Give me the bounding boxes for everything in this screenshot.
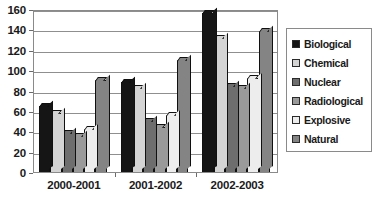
y-tick-label: 0 bbox=[20, 167, 26, 179]
bar-biological-2001-2002 bbox=[121, 82, 132, 172]
bar-group bbox=[197, 11, 279, 172]
legend-item-label: Natural bbox=[304, 133, 338, 145]
bar-side-face bbox=[49, 101, 53, 169]
legend-swatch-icon bbox=[292, 78, 300, 86]
x-tick-mark bbox=[115, 173, 116, 177]
y-tick-label: 160 bbox=[7, 4, 26, 16]
bar-side-face bbox=[106, 75, 110, 169]
plot-area bbox=[33, 10, 278, 173]
bar-side-face bbox=[61, 108, 65, 169]
bar-side-face bbox=[72, 128, 76, 169]
legend-item-natural[interactable]: Natural bbox=[292, 129, 367, 148]
bar-biological-2002-2003 bbox=[202, 13, 213, 172]
legend-item-label: Nuclear bbox=[304, 76, 340, 88]
x-axis: 2000-20012001-20022002-2003 bbox=[33, 176, 278, 198]
legend-swatch-icon bbox=[292, 97, 300, 105]
bar-side-face bbox=[187, 55, 191, 169]
bar-side-face bbox=[269, 26, 273, 169]
bar-side-face bbox=[258, 73, 262, 169]
y-tick-label: 100 bbox=[7, 65, 26, 77]
bars-layer bbox=[34, 11, 277, 172]
legend-swatch-icon bbox=[292, 135, 300, 143]
y-tick-label: 40 bbox=[14, 126, 26, 138]
y-tick-label: 20 bbox=[14, 147, 26, 159]
y-tick-label: 120 bbox=[7, 45, 26, 57]
bar-side-face bbox=[94, 124, 98, 169]
bar-biological-2000-2001 bbox=[39, 106, 50, 172]
legend-item-radiological[interactable]: Radiological bbox=[292, 91, 367, 110]
y-tick-label: 140 bbox=[7, 24, 26, 36]
bar-side-face bbox=[224, 32, 228, 169]
legend: BiologicalChemicalNuclearRadiologicalExp… bbox=[286, 28, 372, 152]
bar-side-face bbox=[165, 122, 169, 169]
legend-item-label: Radiological bbox=[304, 95, 363, 107]
legend-item-biological[interactable]: Biological bbox=[292, 34, 367, 53]
bar-side-face bbox=[235, 81, 239, 169]
bar-side-face bbox=[142, 83, 146, 169]
bar-side-face bbox=[153, 116, 157, 169]
bar-side-face bbox=[213, 8, 217, 169]
x-tick-label: 2000-2001 bbox=[47, 179, 100, 191]
legend-swatch-icon bbox=[292, 116, 300, 124]
x-tick-label: 2001-2002 bbox=[129, 179, 182, 191]
bar-group bbox=[116, 11, 198, 172]
y-axis: 020406080100120140160 bbox=[0, 0, 29, 180]
legend-swatch-icon bbox=[292, 59, 300, 67]
x-tick-label: 2002-2003 bbox=[211, 179, 264, 191]
bar-side-face bbox=[131, 77, 135, 169]
legend-item-explosive[interactable]: Explosive bbox=[292, 110, 367, 129]
y-tick-label: 80 bbox=[14, 86, 26, 98]
bar-group bbox=[34, 11, 116, 172]
y-tick-mark bbox=[29, 173, 33, 174]
legend-item-label: Explosive bbox=[304, 114, 350, 126]
bar-side-face bbox=[83, 131, 87, 169]
legend-item-label: Chemical bbox=[304, 57, 348, 69]
figure-caption bbox=[0, 200, 377, 211]
bar-side-face bbox=[246, 83, 250, 169]
bar-side-face bbox=[176, 110, 180, 169]
bar-chart-figure: 020406080100120140160 2000-20012001-2002… bbox=[0, 0, 377, 211]
legend-swatch-icon bbox=[292, 40, 300, 48]
y-tick-label: 60 bbox=[14, 106, 26, 118]
legend-item-label: Biological bbox=[304, 38, 351, 50]
x-tick-mark bbox=[196, 173, 197, 177]
legend-item-nuclear[interactable]: Nuclear bbox=[292, 72, 367, 91]
legend-item-chemical[interactable]: Chemical bbox=[292, 53, 367, 72]
